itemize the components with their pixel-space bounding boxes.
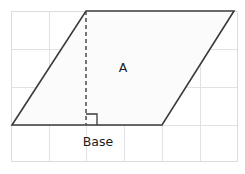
parallelogram-figure: A Base — [0, 0, 245, 174]
area-label: A — [119, 60, 128, 75]
figure-canvas: A Base — [0, 0, 245, 174]
base-label: Base — [83, 134, 114, 149]
